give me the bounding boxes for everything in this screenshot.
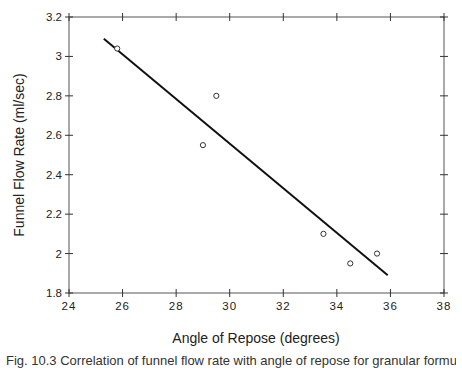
x-tick-label: 32: [276, 300, 291, 312]
y-tick-label: 2.4: [46, 169, 63, 181]
y-tick-label: 2.8: [46, 90, 62, 102]
y-tick-labels: 1.822.22.42.62.833.2: [46, 11, 63, 299]
fit-line: [104, 39, 388, 276]
y-tick-label: 3.2: [46, 11, 62, 23]
y-tick-label: 2.6: [46, 129, 62, 141]
x-tick-label: 36: [383, 300, 398, 312]
plot-frame: [69, 17, 444, 293]
x-tick-label: 34: [329, 300, 344, 312]
x-tick-label: 30: [222, 300, 237, 312]
x-tick-label: 38: [437, 300, 452, 312]
y-tick-label: 2: [56, 248, 62, 260]
y-tick-label: 3: [56, 50, 62, 62]
data-point-marker: [321, 231, 326, 236]
x-axis-title: Angle of Repose (degrees): [172, 330, 339, 346]
x-tick-labels: 2426283032343638: [62, 300, 452, 312]
data-point-marker: [374, 251, 379, 256]
data-point-marker: [348, 261, 353, 266]
x-tick-label: 24: [62, 300, 77, 312]
y-tick-label: 1.8: [46, 287, 62, 299]
data-points: [115, 46, 380, 266]
data-point-marker: [214, 93, 219, 98]
data-point-marker: [200, 143, 205, 148]
x-tick-label: 26: [115, 300, 130, 312]
regression-line: [104, 39, 388, 276]
x-tick-label: 28: [169, 300, 184, 312]
y-tick-label: 2.2: [46, 208, 62, 220]
data-point-marker: [115, 46, 120, 51]
axis-ticks: [65, 13, 448, 297]
y-axis-title: Funnel Flow Rate (ml/sec): [11, 73, 27, 236]
figure-caption: Fig. 10.3 Correlation of funnel flow rat…: [6, 354, 456, 368]
